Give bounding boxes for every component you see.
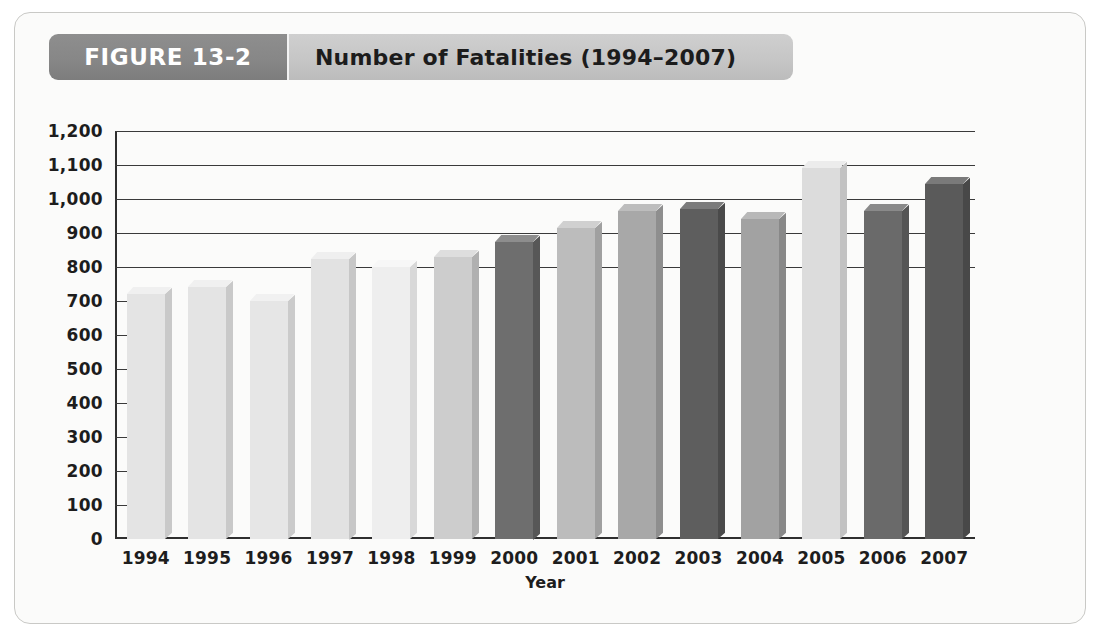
bar-slot: 2004: [729, 131, 790, 539]
bar[interactable]: [680, 209, 718, 539]
bar-face: [741, 219, 779, 539]
bar-slot: 2000: [484, 131, 545, 539]
x-axis-tick-label: 2000: [490, 548, 538, 568]
bar-face: [557, 228, 595, 539]
bar[interactable]: [741, 219, 779, 539]
bar-slot: 2001: [545, 131, 606, 539]
bar-top-face: [188, 280, 232, 287]
y-axis-tick-label: 700: [67, 291, 103, 311]
x-axis-tick-label: 1998: [367, 548, 415, 568]
bar-top-face: [618, 204, 662, 211]
y-axis-tick-label: 400: [67, 393, 103, 413]
y-axis-tick-label: 500: [67, 359, 103, 379]
y-axis-tick-label: 1,100: [48, 155, 103, 175]
bar[interactable]: [618, 211, 656, 539]
x-axis-tick-label: 2001: [552, 548, 600, 568]
bar[interactable]: [925, 184, 963, 539]
bar-slot: 2003: [668, 131, 729, 539]
y-axis-tick-label: 600: [67, 325, 103, 345]
bar-side-face: [656, 205, 663, 539]
bar-face: [127, 294, 165, 539]
y-axis-tick-label: 1,000: [48, 189, 103, 209]
bar-top-face: [372, 260, 416, 267]
bar-top-face: [925, 177, 969, 184]
bar-top-face: [127, 287, 171, 294]
x-axis-tick-label: 2004: [736, 548, 784, 568]
bar-slot: 2005: [791, 131, 852, 539]
bar-side-face: [288, 295, 295, 539]
x-axis-title: Year: [115, 573, 975, 592]
x-axis-tick-label: 1996: [244, 548, 292, 568]
y-axis-tick-label: 100: [67, 495, 103, 515]
bar-top-face: [741, 212, 785, 219]
bar-slot: 1995: [176, 131, 237, 539]
x-axis-tick-label: 1999: [429, 548, 477, 568]
bar-top-face: [680, 202, 724, 209]
bar-face: [434, 257, 472, 539]
bar-side-face: [718, 203, 725, 539]
bar-face: [495, 242, 533, 540]
y-axis-tick-label: 200: [67, 461, 103, 481]
bar[interactable]: [864, 211, 902, 539]
bar-face: [925, 184, 963, 539]
bar[interactable]: [188, 287, 226, 539]
bar-slot: 1996: [238, 131, 299, 539]
x-axis-tick-label: 2003: [674, 548, 722, 568]
y-axis-tick-label: 1,200: [48, 121, 103, 141]
bar[interactable]: [250, 301, 288, 539]
bar-series: 1994199519961997199819992000200120022003…: [115, 131, 975, 539]
x-axis-tick-label: 1997: [306, 548, 354, 568]
y-axis-tick-label: 0: [91, 529, 103, 549]
figure-panel: FIGURE 13-2 Number of Fatalities (1994–2…: [14, 12, 1086, 624]
y-axis-tick-label: 800: [67, 257, 103, 277]
bar-top-face: [557, 221, 601, 228]
bar-face: [802, 168, 840, 539]
bar-chart: 01002003004005006007008009001,0001,1001,…: [15, 13, 1087, 625]
bar-side-face: [533, 235, 540, 539]
bar-face: [680, 209, 718, 539]
bar-top-face: [250, 294, 294, 301]
bar-face: [250, 301, 288, 539]
bar[interactable]: [557, 228, 595, 539]
bar-side-face: [349, 252, 356, 539]
bar-face: [188, 287, 226, 539]
bar-slot: 2002: [606, 131, 667, 539]
bar[interactable]: [127, 294, 165, 539]
bar-slot: 1997: [299, 131, 360, 539]
bar-side-face: [963, 177, 970, 539]
bar-side-face: [902, 205, 909, 539]
bar-side-face: [595, 222, 602, 539]
bar-slot: 1994: [115, 131, 176, 539]
x-axis-tick-label: 2005: [797, 548, 845, 568]
x-axis-tick-label: 2006: [859, 548, 907, 568]
bar-face: [864, 211, 902, 539]
bar-side-face: [410, 261, 417, 539]
bar[interactable]: [802, 168, 840, 539]
bar-side-face: [472, 251, 479, 539]
bar-face: [618, 211, 656, 539]
bar-side-face: [226, 281, 233, 539]
bar[interactable]: [311, 259, 349, 540]
x-axis-tick-label: 1994: [122, 548, 170, 568]
bar-face: [311, 259, 349, 540]
bar-slot: 1998: [361, 131, 422, 539]
bar-slot: 2007: [914, 131, 975, 539]
bar[interactable]: [495, 242, 533, 540]
bar-top-face: [802, 161, 846, 168]
x-axis-tick-label: 1995: [183, 548, 231, 568]
x-axis-tick-label: 2002: [613, 548, 661, 568]
plot-area: 01002003004005006007008009001,0001,1001,…: [115, 131, 975, 539]
bar[interactable]: [372, 267, 410, 539]
x-axis-tick-label: 2007: [920, 548, 968, 568]
y-axis-tick-label: 300: [67, 427, 103, 447]
bar-top-face: [434, 250, 478, 257]
bar-face: [372, 267, 410, 539]
y-axis-tick-label: 900: [67, 223, 103, 243]
bar-top-face: [311, 252, 355, 259]
bar[interactable]: [434, 257, 472, 539]
bar-slot: 2006: [852, 131, 913, 539]
bar-side-face: [165, 288, 172, 539]
bar-side-face: [779, 213, 786, 539]
bar-slot: 1999: [422, 131, 483, 539]
bar-top-face: [495, 235, 539, 242]
